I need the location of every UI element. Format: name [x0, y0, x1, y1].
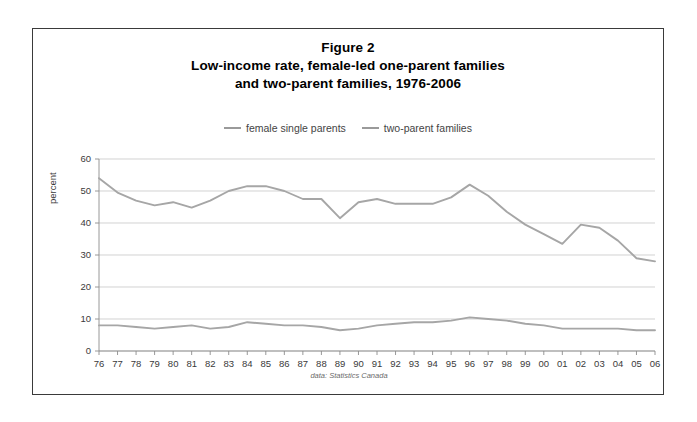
x-tick-label: 82: [205, 358, 216, 369]
x-tick-label: 86: [279, 358, 290, 369]
x-tick-label: 01: [557, 358, 568, 369]
x-tick-label: 88: [316, 358, 327, 369]
y-tick-label: 60: [80, 153, 91, 164]
y-tick-label: 10: [80, 313, 91, 324]
source-note: data: Statistics Canada: [33, 371, 665, 380]
x-tick-label: 05: [631, 358, 642, 369]
x-tick-label: 95: [446, 358, 457, 369]
y-tick-label: 50: [80, 185, 91, 196]
y-tick-label: 40: [80, 217, 91, 228]
x-tick-label: 89: [335, 358, 346, 369]
x-tick-label: 81: [186, 358, 197, 369]
x-tick-label: 87: [298, 358, 309, 369]
y-tick-label: 20: [80, 281, 91, 292]
x-tick-label: 78: [131, 358, 142, 369]
line-chart-svg: 0102030405060767778798081828384858687888…: [33, 29, 665, 396]
x-tick-label: 84: [242, 358, 253, 369]
x-tick-label: 79: [149, 358, 160, 369]
figure-border: Figure 2 Low-income rate, female-led one…: [32, 28, 664, 395]
x-tick-label: 02: [576, 358, 587, 369]
x-tick-label: 04: [613, 358, 624, 369]
x-tick-label: 80: [168, 358, 179, 369]
x-tick-label: 90: [353, 358, 364, 369]
x-tick-label: 92: [390, 358, 401, 369]
x-tick-label: 77: [112, 358, 123, 369]
x-tick-label: 76: [94, 358, 105, 369]
x-tick-label: 83: [223, 358, 234, 369]
x-tick-label: 97: [483, 358, 494, 369]
x-tick-label: 94: [427, 358, 438, 369]
x-tick-label: 06: [650, 358, 661, 369]
y-tick-label: 30: [80, 249, 91, 260]
x-tick-label: 96: [464, 358, 475, 369]
x-tick-label: 03: [594, 358, 605, 369]
x-tick-label: 85: [261, 358, 272, 369]
x-tick-label: 98: [501, 358, 512, 369]
x-tick-label: 00: [539, 358, 550, 369]
y-tick-label: 0: [86, 345, 91, 356]
x-tick-label: 93: [409, 358, 420, 369]
plot-area: 0102030405060767778798081828384858687888…: [33, 29, 665, 396]
x-tick-label: 99: [520, 358, 531, 369]
x-tick-label: 91: [372, 358, 383, 369]
